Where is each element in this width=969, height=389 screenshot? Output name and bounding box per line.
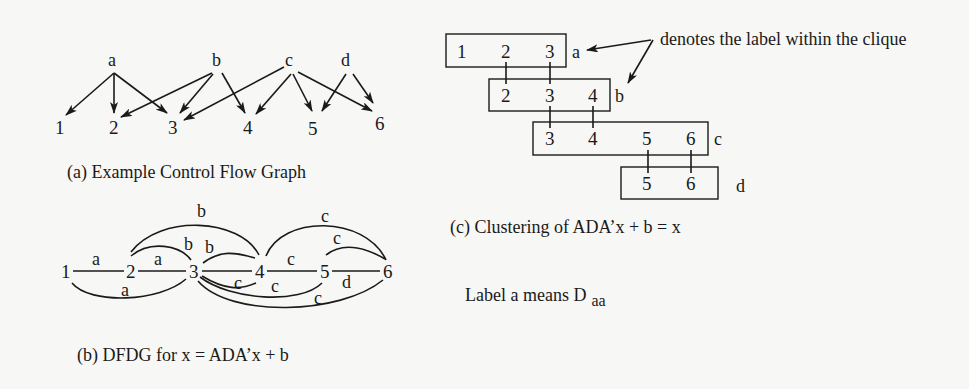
dfdg-edge-label: c: [271, 276, 279, 296]
clique-c-member: 4: [588, 128, 598, 149]
clique-c-member: 6: [686, 128, 696, 149]
cfg-label-d: d: [341, 50, 350, 70]
figure-canvas: a b c d 1 2 3 4 5 6 (a) Example Control …: [0, 0, 969, 389]
clique-a-member: 1: [457, 41, 467, 62]
dfdg-node-6: 6: [383, 261, 393, 282]
clique-label-d: d: [736, 176, 745, 196]
cfg-node-4: 4: [243, 117, 253, 138]
dfdg-node-2: 2: [126, 261, 136, 282]
clique-b-member: 4: [588, 85, 598, 106]
dfdg-graph: 1 2 3 4 5 6 a a a b b b c c c c c c d (b…: [61, 201, 393, 366]
caption-c: (c) Clustering of ADA’x + b = x: [450, 217, 681, 238]
cfg-node-2: 2: [109, 117, 119, 138]
dfdg-edge-label: a: [92, 249, 100, 269]
dfdg-edge-label: c: [314, 288, 322, 308]
cfg-label-c: c: [285, 50, 293, 70]
dfdg-edge-label: b: [184, 234, 193, 254]
cfg-node-1: 1: [55, 117, 65, 138]
control-flow-graph: a b c d 1 2 3 4 5 6 (a) Example Control …: [55, 50, 385, 183]
clique-b-member: 3: [545, 85, 555, 106]
dfdg-edge-label: c: [333, 228, 341, 248]
clique-label-a: a: [572, 42, 580, 62]
clique-c-member: 3: [545, 128, 555, 149]
cfg-node-6: 6: [375, 113, 385, 134]
clique-d-member: 5: [642, 173, 652, 194]
cfg-edges: [66, 67, 373, 120]
clique-a-member: 3: [545, 41, 555, 62]
clique-a-member: 2: [501, 41, 511, 62]
dfdg-edge-label: c: [287, 249, 295, 269]
legend-text: Label a means Daa: [465, 285, 606, 309]
cfg-label-a: a: [108, 50, 116, 70]
dfdg-node-4: 4: [255, 261, 265, 282]
dfdg-edge-label: a: [121, 280, 129, 300]
caption-a: (a) Example Control Flow Graph: [67, 162, 306, 183]
clique-box-c: [533, 122, 708, 155]
clique-box-d: [621, 167, 718, 199]
dfdg-edge-label: c: [321, 206, 329, 226]
clique-d-member: 6: [686, 173, 696, 194]
dfdg-node-3: 3: [189, 261, 199, 282]
cfg-node-5: 5: [308, 118, 318, 139]
dfdg-edge-label: d: [342, 272, 351, 292]
dfdg-edge-label: b: [205, 237, 214, 257]
clique-clustering: 1 2 3 a 2 3 4 b 3 4 5 6 c 5 6 d: [446, 29, 906, 309]
caption-b: (b) DFDG for x = ADA’x + b: [77, 345, 289, 366]
cfg-label-b: b: [212, 50, 221, 70]
clique-c-member: 5: [642, 128, 652, 149]
annotation-text: denotes the label within the clique: [660, 29, 906, 49]
annotation-arrows: [587, 40, 653, 83]
dfdg-node-1: 1: [61, 261, 71, 282]
dfdg-edge-label: a: [154, 249, 162, 269]
dfdg-edge-label: b: [197, 201, 206, 221]
legend-subscript: aa: [591, 292, 605, 309]
clique-label-c: c: [714, 129, 722, 149]
dfdg-node-5: 5: [320, 261, 330, 282]
clique-label-b: b: [615, 86, 624, 106]
cfg-node-3: 3: [168, 117, 178, 138]
dfdg-edge-label: c: [234, 273, 242, 293]
clique-b-member: 2: [501, 85, 511, 106]
legend-main: Label a means D: [465, 285, 586, 305]
